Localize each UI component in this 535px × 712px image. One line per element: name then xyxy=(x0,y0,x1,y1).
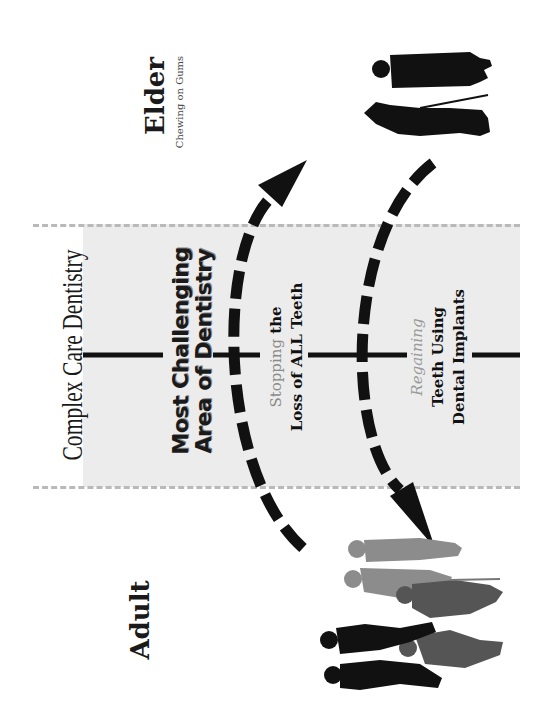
stopping-loss-text: Stopping the Loss of ALL Teeth xyxy=(266,257,310,457)
elder-sublabel: Chewing on Gums xyxy=(173,47,187,157)
challenge-heading: Most Challenging Area of Dentistry xyxy=(169,211,217,491)
stopping-rest: the xyxy=(267,306,285,339)
regaining-highlight: Regaining xyxy=(408,318,426,395)
regaining-line2: Teeth Using xyxy=(429,307,447,407)
challenge-heading-line1: Most Challenging xyxy=(169,211,192,491)
elder-label: Elder xyxy=(139,46,171,146)
adult-silhouettes-icon xyxy=(320,538,503,690)
adult-label: Adult xyxy=(124,570,156,670)
arrowhead-down-icon xyxy=(390,482,435,548)
diagram-canvas: Elder Chewing on Gums Adult Complex Care… xyxy=(0,0,535,712)
regaining-teeth-text: Regaining Teeth Using Dental Implants xyxy=(407,257,471,457)
elder-silhouettes-icon xyxy=(364,52,492,136)
challenge-heading-line2: Area of Dentistry xyxy=(192,211,215,491)
band-title: Complex Care Dentistry xyxy=(54,225,90,484)
stopping-highlight: Stopping xyxy=(267,339,285,408)
regaining-line3: Dental Implants xyxy=(450,289,468,425)
stopping-line2: Loss of ALL Teeth xyxy=(288,283,306,432)
